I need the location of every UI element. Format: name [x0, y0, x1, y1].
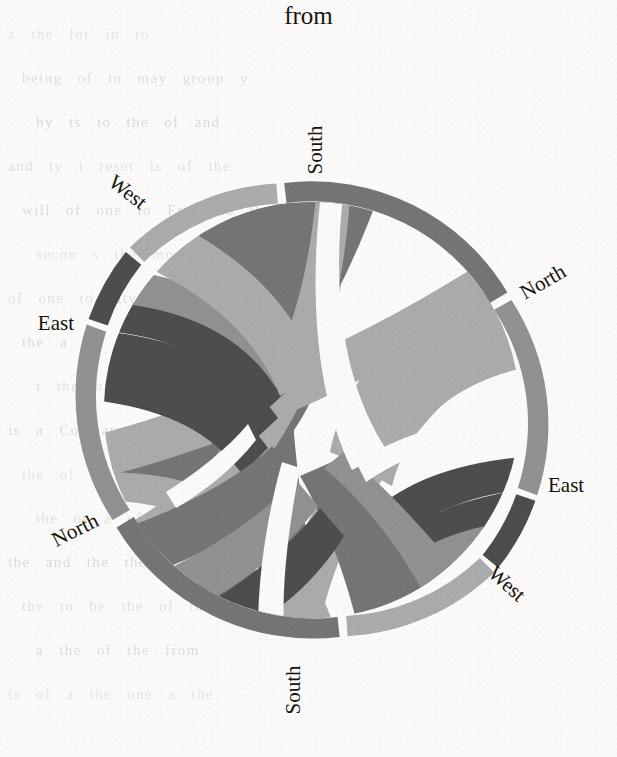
label-west-right: West [484, 561, 531, 607]
label-south-bottom: South [281, 665, 305, 715]
label-north-left: North [48, 508, 103, 552]
label-east-right: East [548, 473, 584, 497]
label-south-top: South [303, 125, 327, 175]
label-north-right: North [516, 259, 571, 305]
chord-diagram: SouthNorthEastWestSouthNorthEastWest [0, 0, 617, 757]
label-east-left: East [38, 311, 74, 335]
label-west-left: West [104, 169, 152, 214]
